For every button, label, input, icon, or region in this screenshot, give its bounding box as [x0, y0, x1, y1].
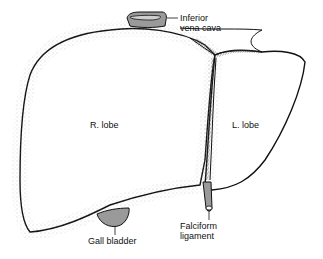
- label-left-lobe: L. lobe: [232, 120, 259, 130]
- label-right-lobe: R. lobe: [90, 120, 119, 130]
- liver-diagram: [0, 0, 323, 259]
- label-gall-bladder: Gall bladder: [88, 236, 137, 246]
- label-inferior-vena-cava: Inferior vena cava: [180, 13, 221, 33]
- label-falciform-ligament: Falciform ligament: [180, 221, 217, 241]
- inferior-vena-cava-shape: [127, 12, 166, 28]
